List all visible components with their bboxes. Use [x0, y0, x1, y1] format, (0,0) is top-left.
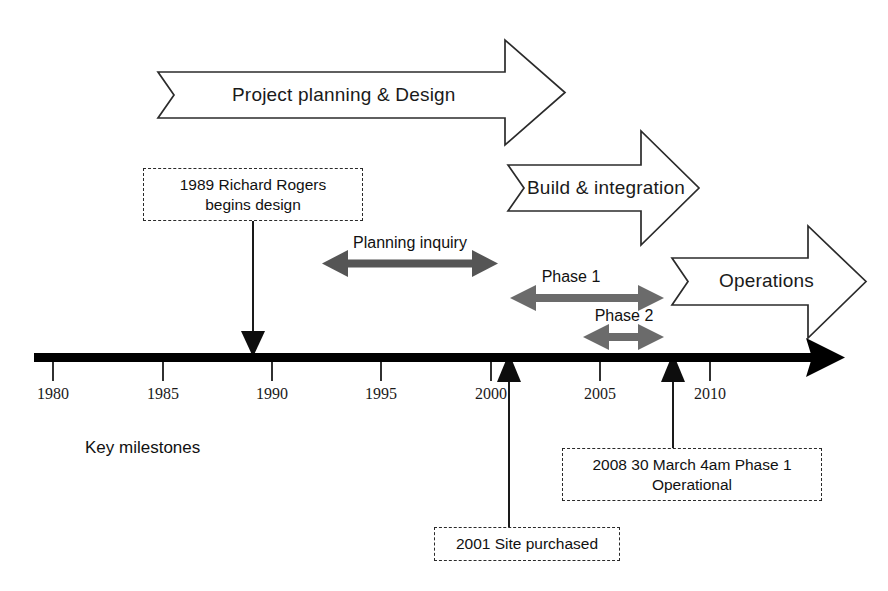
axis-tick-label-2010: 2010: [694, 385, 726, 403]
milestone-callout-line-2: Operational: [592, 475, 791, 495]
span-arrow-phase-2-label: Phase 2: [595, 307, 654, 325]
axis-tick-label-1995: 1995: [365, 385, 397, 403]
timeline-axis: [34, 338, 845, 381]
milestone-callout-site-purchased: 2001 Site purchased: [434, 527, 620, 561]
span-arrow-planning-inquiry-label: Planning inquiry: [353, 234, 467, 252]
span-arrow-planning-inquiry-shape: [322, 250, 498, 277]
axis-tick-label-1985: 1985: [147, 385, 179, 403]
milestone-connector-phase-1-operational: [661, 353, 685, 450]
key-milestones-caption: Key milestones: [85, 438, 200, 458]
milestone-callout-phase-1-operational: 2008 30 March 4am Phase 1 Operational: [562, 448, 822, 501]
phase-arrow-build-integration-label: Build & integration: [527, 177, 685, 199]
milestone-connector-site-purchased: [497, 353, 521, 527]
milestone-callout-line-1: 1989 Richard Rogers: [180, 175, 326, 195]
milestone-callout-line-1: 2008 30 March 4am Phase 1: [592, 455, 791, 475]
axis-tick-label-2005: 2005: [584, 385, 616, 403]
milestone-callout-line-2: begins design: [180, 195, 326, 215]
span-arrow-phase-2-shape: [583, 324, 664, 350]
axis-tick-label-1980: 1980: [37, 385, 69, 403]
axis-tick-label-2000: 2000: [475, 385, 507, 403]
milestone-callout-richard-rogers-design: 1989 Richard Rogers begins design: [143, 168, 363, 221]
milestone-callout-line-1: 2001 Site purchased: [456, 534, 598, 554]
axis-tick-label-1990: 1990: [256, 385, 288, 403]
span-arrow-phase-1-label: Phase 1: [542, 268, 601, 286]
phase-arrow-project-planning-design-label: Project planning & Design: [232, 84, 456, 106]
milestone-connector-richard-rogers-design: [241, 221, 265, 357]
phase-arrow-operations-label: Operations: [719, 270, 814, 292]
